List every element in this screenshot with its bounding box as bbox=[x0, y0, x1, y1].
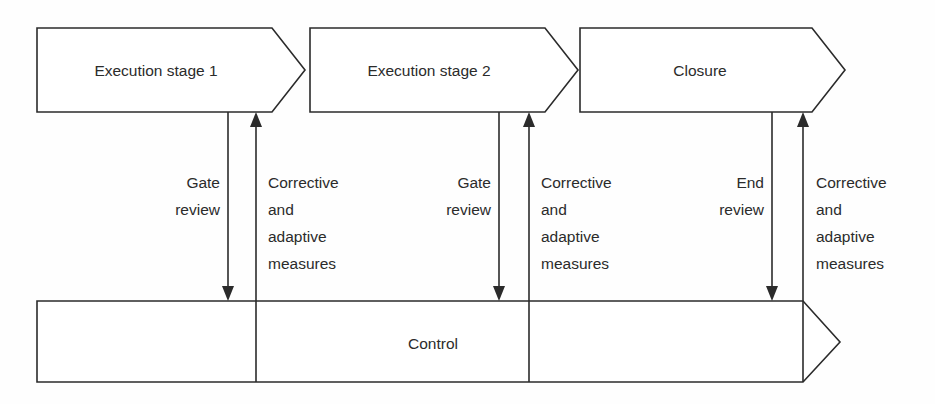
stage-label-2: Execution stage 2 bbox=[367, 62, 490, 79]
diagram-canvas: Execution stage 1 Execution stage 2 Clos… bbox=[0, 0, 935, 404]
gate-review-label-1-line1: Gate bbox=[186, 174, 220, 191]
process-flow-diagram: Execution stage 1 Execution stage 2 Clos… bbox=[0, 0, 935, 404]
corrective-label-1-line1: Corrective bbox=[268, 174, 339, 191]
corrective-label-3-line3: adaptive bbox=[816, 228, 875, 245]
corrective-label-1-line3: adaptive bbox=[268, 228, 327, 245]
corrective-arrow-head-1 bbox=[250, 112, 262, 127]
stage-label-1: Execution stage 1 bbox=[94, 62, 217, 79]
corrective-label-2-line4: measures bbox=[541, 255, 609, 272]
corrective-label-3-line1: Corrective bbox=[816, 174, 887, 191]
corrective-label-2-line1: Corrective bbox=[541, 174, 612, 191]
end-review-arrow-head-3 bbox=[766, 286, 778, 301]
corrective-label-3-line4: measures bbox=[816, 255, 884, 272]
corrective-label-2-line2: and bbox=[541, 201, 567, 218]
control-label: Control bbox=[408, 335, 458, 352]
gate-review-label-2-line1: Gate bbox=[457, 174, 491, 191]
gate-review-arrow-head-1 bbox=[222, 286, 234, 301]
corrective-label-1-line2: and bbox=[268, 201, 294, 218]
corrective-label-3-line2: and bbox=[816, 201, 842, 218]
gate-review-label-2-line2: review bbox=[446, 201, 492, 218]
corrective-arrow-head-3 bbox=[797, 112, 809, 127]
gate-review-label-1-line2: review bbox=[175, 201, 221, 218]
corrective-label-2-line3: adaptive bbox=[541, 228, 600, 245]
corrective-arrow-head-2 bbox=[523, 112, 535, 127]
stage-label-3: Closure bbox=[673, 62, 726, 79]
corrective-label-1-line4: measures bbox=[268, 255, 336, 272]
end-review-label-3-line2: review bbox=[719, 201, 765, 218]
end-review-label-3-line1: End bbox=[736, 174, 764, 191]
gate-review-arrow-head-2 bbox=[493, 286, 505, 301]
